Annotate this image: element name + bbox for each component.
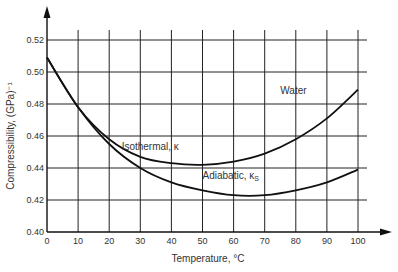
annotation-label: Adiabatic, κS xyxy=(203,170,260,182)
y-tick-label: 0.44 xyxy=(26,163,44,173)
y-tick-label: 0.50 xyxy=(26,67,44,77)
x-axis-label: Temperature, °C xyxy=(172,253,245,264)
x-tick-label: 60 xyxy=(229,236,239,246)
grid xyxy=(47,30,367,232)
y-axis-arrow-icon xyxy=(44,6,51,18)
x-tick-label: 80 xyxy=(291,236,301,246)
x-tick-label: 90 xyxy=(322,236,332,246)
x-tick-label: 100 xyxy=(350,236,365,246)
x-tick-label: 0 xyxy=(44,236,49,246)
compressibility-chart: 01020304050607080901000.400.420.440.460.… xyxy=(0,0,398,272)
x-tick-label: 40 xyxy=(166,236,176,246)
y-tick-label: 0.52 xyxy=(26,35,44,45)
x-tick-label: 70 xyxy=(260,236,270,246)
y-tick-label: 0.40 xyxy=(26,227,44,237)
x-tick-label: 50 xyxy=(197,236,207,246)
y-tick-label: 0.48 xyxy=(26,99,44,109)
x-axis-arrow-icon xyxy=(380,229,392,236)
annotation-label: Isothermal, κ xyxy=(122,141,180,152)
x-tick-label: 10 xyxy=(73,236,83,246)
x-tick-label: 20 xyxy=(104,236,114,246)
annotation-label: Water xyxy=(280,85,307,96)
y-tick-label: 0.46 xyxy=(26,131,44,141)
y-axis-label: Compressibility, (GPa)⁻¹ xyxy=(5,82,16,190)
y-tick-label: 0.42 xyxy=(26,195,44,205)
tick-labels: 01020304050607080901000.400.420.440.460.… xyxy=(26,35,365,246)
x-tick-label: 30 xyxy=(135,236,145,246)
